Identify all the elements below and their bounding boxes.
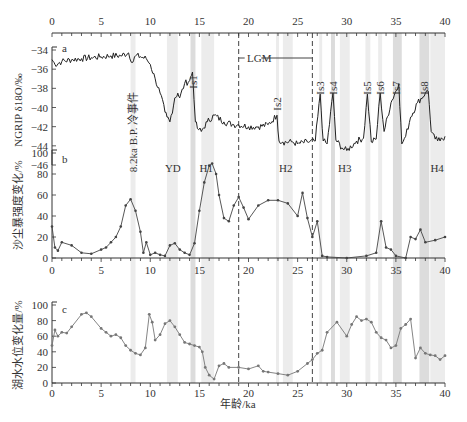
lake-level-point bbox=[178, 333, 181, 336]
x-tick-label: 10 bbox=[145, 264, 157, 276]
dust-storm-point bbox=[178, 248, 181, 251]
dust-storm-point bbox=[395, 255, 398, 258]
dust-storm-point bbox=[326, 256, 329, 259]
interstadial-label: Is2 bbox=[271, 97, 283, 110]
dust-storm-point bbox=[277, 199, 280, 202]
lake-level-point bbox=[119, 336, 122, 339]
panel-c-letter: c bbox=[62, 303, 67, 315]
x-tick-label: 10 bbox=[145, 387, 157, 399]
dust-storm-point bbox=[119, 225, 122, 228]
lake-level-point bbox=[105, 331, 108, 334]
x-tick-label: 30 bbox=[341, 387, 353, 399]
lake-level-point bbox=[409, 318, 412, 321]
lake-level-point bbox=[350, 323, 353, 326]
x-tick-label: 20 bbox=[243, 264, 255, 276]
dust-storm-point bbox=[198, 209, 201, 212]
lake-level-point bbox=[394, 344, 397, 347]
lake-level-point bbox=[154, 339, 157, 342]
dust-storm-point bbox=[390, 248, 393, 251]
heinrich-event-label: H1 bbox=[200, 162, 213, 174]
x-tick-label: 25 bbox=[292, 15, 304, 27]
lake-level-point bbox=[134, 352, 137, 355]
y-tick-label: −36 bbox=[31, 63, 49, 75]
panel-b-ylabel: 沙尘暴强度变化/% bbox=[11, 160, 24, 249]
lake-level-point bbox=[365, 318, 368, 321]
dust-storm-point bbox=[218, 194, 221, 197]
dust-storm-point bbox=[145, 241, 148, 244]
dust-storm-point bbox=[164, 255, 167, 258]
data-series bbox=[51, 53, 447, 381]
lake-level-point bbox=[80, 313, 83, 316]
dust-storm-point bbox=[183, 251, 186, 254]
dust-storm-point bbox=[169, 244, 172, 247]
lake-level-point bbox=[414, 357, 417, 360]
lake-level-point bbox=[151, 321, 154, 324]
dust-storm-point bbox=[434, 239, 437, 242]
lake-level-point bbox=[375, 331, 378, 334]
x-tick-label: 15 bbox=[194, 264, 206, 276]
lake-level-point bbox=[208, 374, 211, 377]
x-tick-label: 35 bbox=[390, 264, 402, 276]
heinrich-event-label: YD bbox=[165, 162, 181, 174]
y-tick-label: 60 bbox=[37, 330, 49, 342]
lake-level-point bbox=[429, 354, 432, 357]
dust-storm-point bbox=[70, 244, 73, 247]
x-tick-label: 5 bbox=[98, 264, 104, 276]
dust-storm-point bbox=[316, 220, 319, 223]
dust-storm-point bbox=[154, 251, 157, 254]
lake-level-point bbox=[434, 354, 437, 357]
dust-storm-point bbox=[100, 248, 103, 251]
dust-storm-point bbox=[54, 246, 57, 249]
dust-storm-point bbox=[193, 242, 196, 245]
x-tick-label: 15 bbox=[194, 15, 206, 27]
lake-level-point bbox=[296, 370, 299, 373]
x-tick-label: 30 bbox=[341, 264, 353, 276]
dust-storm-point bbox=[242, 206, 245, 209]
lake-level-point bbox=[54, 329, 57, 332]
paleoclimate-figure: 0510152025303540051015202530354005101520… bbox=[0, 0, 467, 422]
dust-storm-point bbox=[247, 218, 250, 221]
dust-storm-point bbox=[296, 215, 299, 218]
x-axis-title: 年龄/ka bbox=[220, 397, 256, 410]
dust-storm-point bbox=[404, 257, 407, 260]
dust-storm-point bbox=[174, 242, 177, 245]
lake-level-point bbox=[90, 315, 93, 318]
dust-storm-point bbox=[203, 181, 206, 184]
heinrich-event-label: H4 bbox=[430, 162, 444, 174]
x-tick-label: 0 bbox=[49, 264, 55, 276]
lake-level-point bbox=[390, 347, 393, 350]
lake-level-point bbox=[51, 344, 54, 347]
dust-storm-point bbox=[419, 228, 422, 231]
panel-b-letter: b bbox=[62, 153, 68, 165]
x-tick-label: 20 bbox=[243, 15, 255, 27]
dust-storm-point bbox=[237, 196, 240, 199]
lake-level-point bbox=[188, 343, 191, 346]
dust-storm-point bbox=[414, 238, 417, 241]
x-tick-label: 40 bbox=[440, 15, 452, 27]
axes: 0510152025303540051015202530354005101520… bbox=[31, 15, 451, 399]
x-tick-label: 5 bbox=[98, 387, 104, 399]
shaded-band bbox=[167, 33, 178, 383]
heinrich-event-label: H3 bbox=[338, 162, 352, 174]
y-tick-label: 80 bbox=[37, 168, 49, 180]
lake-level-point bbox=[139, 354, 142, 357]
lake-level-point bbox=[65, 332, 68, 335]
interstadial-label: Is7 bbox=[390, 81, 402, 95]
lake-level-point bbox=[257, 364, 260, 367]
lake-level-point bbox=[424, 352, 427, 355]
lake-level-point bbox=[306, 362, 309, 365]
lake-level-point bbox=[336, 321, 339, 324]
lake-level-point bbox=[129, 349, 132, 352]
lake-level-point bbox=[444, 354, 447, 357]
lake-level-point bbox=[124, 344, 127, 347]
lake-level-point bbox=[85, 311, 88, 314]
lake-level-point bbox=[404, 323, 407, 326]
interstadial-label: Is3 bbox=[314, 81, 326, 95]
dust-storm-point bbox=[134, 209, 137, 212]
x-tick-label: 5 bbox=[98, 15, 104, 27]
lake-level-point bbox=[237, 366, 240, 369]
dust-storm-point bbox=[375, 251, 378, 254]
lake-level-point bbox=[201, 350, 204, 353]
y-tick-label: 0 bbox=[43, 252, 49, 264]
dust-storm-point bbox=[51, 225, 54, 228]
